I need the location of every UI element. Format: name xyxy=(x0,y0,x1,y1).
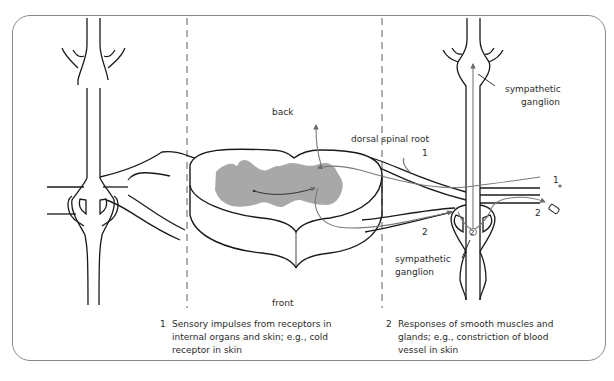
label-sympathetic-ganglion-top-1: sympathetic xyxy=(505,83,561,95)
marker-2-bottom: 2 xyxy=(422,226,428,238)
blood-vessel-icon xyxy=(548,204,560,215)
label-sympathetic-ganglion-top-2: ganglion xyxy=(521,96,560,108)
label-back: back xyxy=(272,106,293,118)
label-dorsal-spinal-root: dorsal spinal root xyxy=(351,133,429,145)
path-1-branch xyxy=(403,158,410,172)
left-sympathetic-chain xyxy=(47,18,128,305)
caption-2-text: Responses of smooth muscles and glands; … xyxy=(398,318,578,357)
caption-1: 1 Sensory impulses from receptors in int… xyxy=(160,318,350,357)
marker-1-top: 1 xyxy=(422,147,428,159)
label-front: front xyxy=(272,297,293,309)
caption-1-text: Sensory impulses from receptors in inter… xyxy=(172,318,350,357)
path-2-ganglion xyxy=(458,197,545,230)
label-sympathetic-ganglion-bottom-2: ganglion xyxy=(395,266,434,278)
marker-2-right: 2 xyxy=(535,207,541,219)
caption-2: 2 Responses of smooth muscles and glands… xyxy=(386,318,578,357)
receptor-icon xyxy=(558,184,561,187)
caption-1-number: 1 xyxy=(160,318,166,331)
marker-2-ganglion: 2 xyxy=(470,227,474,239)
marker-1-right: 1 xyxy=(553,174,559,186)
caption-2-number: 2 xyxy=(386,318,392,331)
label-sympathetic-ganglion-bottom-1: sympathetic xyxy=(395,253,451,265)
